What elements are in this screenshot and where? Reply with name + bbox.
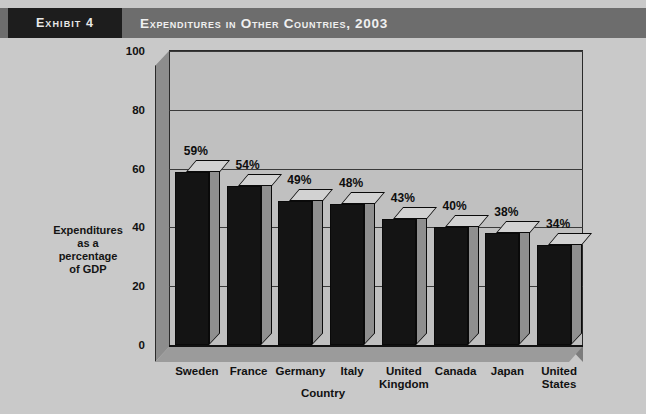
bar-value-label: 34% [532, 218, 584, 230]
bar-side-face [519, 221, 530, 345]
bar-side-face [261, 174, 272, 345]
y-axis-title-line-3: percentage [36, 250, 140, 263]
bar-front-face [537, 245, 571, 345]
bar [278, 189, 312, 345]
bar-value-label: 54% [222, 159, 274, 171]
bar-side-face [416, 207, 427, 345]
x-axis-title: Country [0, 387, 646, 399]
bar-front-face [278, 201, 312, 345]
gridline [169, 110, 583, 111]
bar-side-face [571, 233, 582, 345]
plot-area: 59%54%49%48%43%40%38%34% [155, 50, 583, 362]
bar-top-face [548, 233, 592, 245]
bar [330, 192, 364, 345]
bar [485, 221, 519, 345]
bar-value-label: 48% [325, 177, 377, 189]
bar-side-face [468, 216, 479, 345]
bar-value-label: 38% [480, 206, 532, 218]
bar-front-face [330, 204, 364, 345]
bar [382, 207, 416, 345]
y-axis-title-line-4: of GDP [36, 263, 140, 276]
y-axis-tick-label: 40 [111, 222, 145, 233]
y-axis-tick-label: 100 [111, 46, 145, 57]
bar-side-face [364, 192, 375, 345]
bar [175, 160, 209, 345]
bar [434, 215, 468, 345]
exhibit-title: Expenditures in Other Countries, 2003 [140, 8, 388, 38]
bar-front-face [175, 172, 209, 345]
plot-left-wall [155, 50, 170, 362]
bar-front-face [227, 186, 261, 345]
x-axis-category-label-line: United [528, 365, 590, 378]
bar-front-face [485, 233, 519, 345]
bar-front-face [434, 227, 468, 345]
x-axis-line [169, 345, 583, 347]
y-axis-title-line-2: as a [36, 237, 140, 250]
plot-floor [155, 346, 583, 362]
chart-canvas: Expenditures as a percentage of GDP 0204… [0, 38, 646, 414]
bar-value-label: 59% [170, 145, 222, 157]
y-axis-tick-label: 0 [111, 340, 145, 351]
y-axis-tick-label: 20 [111, 281, 145, 292]
gridline [169, 51, 583, 52]
bar-value-label: 49% [273, 174, 325, 186]
exhibit-tag: Exhibit 4 [8, 8, 122, 38]
y-axis-tick-label: 80 [111, 105, 145, 116]
bar-value-label: 40% [429, 200, 481, 212]
bar [537, 233, 571, 345]
bar-side-face [209, 160, 220, 345]
bar-front-face [382, 219, 416, 345]
exhibit-page: Exhibit 4 Expenditures in Other Countrie… [0, 0, 646, 414]
bar [227, 174, 261, 345]
y-axis-tick-label: 60 [111, 164, 145, 175]
bar-value-label: 43% [377, 192, 429, 204]
bar-side-face [312, 189, 323, 345]
